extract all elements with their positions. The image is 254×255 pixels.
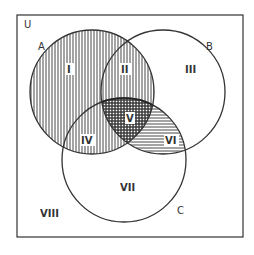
venn-diagram: U A B C I II III IV V VI VII VIII — [0, 0, 254, 255]
region-v-label: V — [126, 113, 134, 124]
region-viii-label: VIII — [40, 208, 59, 219]
region-vi-label: VI — [165, 135, 176, 146]
region-i-label: I — [67, 64, 71, 75]
set-c-label: C — [177, 205, 184, 216]
region-iii-label: III — [185, 64, 196, 75]
universe-label: U — [24, 19, 31, 30]
region-ii-label: II — [121, 64, 128, 75]
region-iv-label: IV — [81, 135, 93, 146]
set-b-label: B — [206, 41, 213, 52]
set-a-label: A — [38, 41, 45, 52]
region-vii-label: VII — [120, 182, 135, 193]
